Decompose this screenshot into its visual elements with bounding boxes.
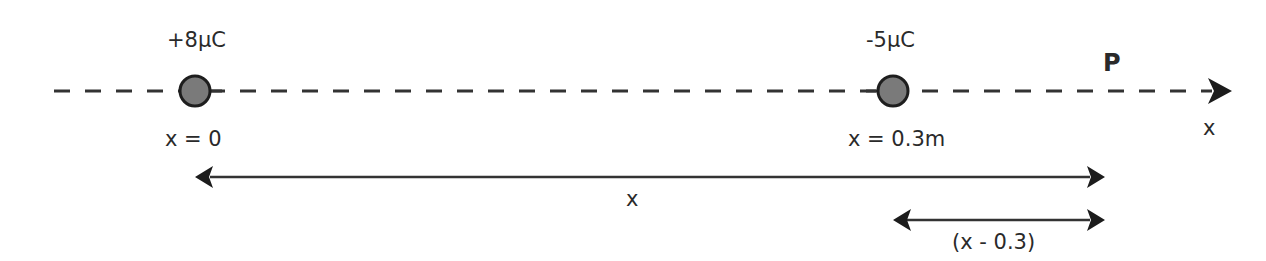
charge-1-position: x = 0: [165, 127, 222, 151]
charge-2-label: -5μC: [866, 28, 915, 52]
axis-label: x: [1203, 116, 1215, 140]
dimension-x-label: x: [626, 187, 638, 211]
charge-1-label: +8μC: [167, 28, 226, 52]
dimension-x-minus-label: (x - 0.3): [952, 230, 1035, 254]
diagram-labels: +8μC x = 0 -5μC x = 0.3m P x x (x - 0.3): [0, 0, 1266, 261]
charge-2-position: x = 0.3m: [848, 127, 945, 151]
point-p-label: P: [1103, 49, 1121, 77]
